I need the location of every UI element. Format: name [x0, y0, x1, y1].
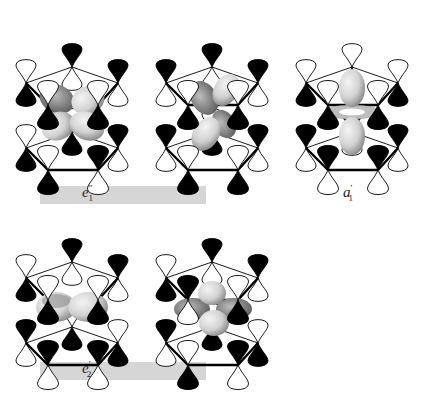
- panel-e2p-b: [156, 239, 268, 390]
- p-orbital-lobe-filled: [388, 125, 408, 148]
- p-orbital-lobe-open: [108, 278, 128, 301]
- p-orbital-lobe-open: [248, 278, 268, 301]
- p-orbital-lobe-filled: [178, 105, 199, 130]
- p-orbital-lobe-open: [248, 320, 268, 343]
- p-orbital-lobe-filled: [108, 255, 128, 278]
- p-orbital-lobe-open: [108, 148, 128, 171]
- p-orbital-lobe-open: [16, 343, 36, 366]
- p-orbital-lobe-open: [62, 262, 82, 285]
- p-orbital-lobe-open: [296, 60, 316, 83]
- symmetry-label: a′1: [343, 183, 353, 203]
- p-orbital-lobe-filled: [178, 170, 199, 195]
- p-orbital-lobe-filled: [248, 343, 268, 366]
- p-orbital-lobe-filled: [248, 125, 268, 148]
- p-orbital-lobe-filled: [202, 239, 222, 262]
- p-orbital-lobe-filled: [38, 340, 59, 365]
- p-orbital-lobe-filled: [108, 343, 128, 366]
- p-orbital-lobe-open: [156, 343, 176, 366]
- p-orbital-lobe-open: [62, 67, 82, 90]
- p-orbital-lobe-open: [38, 365, 59, 390]
- p-orbital-lobe-filled: [228, 340, 249, 365]
- p-orbital-lobe-filled: [228, 105, 249, 130]
- p-orbital-lobe-filled: [248, 255, 268, 278]
- p-orbital-lobe-filled: [156, 278, 176, 301]
- panel-a1p: [296, 44, 408, 195]
- p-orbital-lobe-open: [318, 170, 339, 195]
- p-orbital-lobe-open: [156, 148, 176, 171]
- p-orbital-lobe-open: [16, 60, 36, 83]
- p-orbital-lobe-open: [178, 145, 199, 170]
- p-orbital-lobe-open: [156, 83, 176, 106]
- p-orbital-lobe-open: [342, 44, 362, 67]
- p-orbital-lobe-filled: [108, 125, 128, 148]
- panel-e2p-a: [16, 239, 128, 390]
- p-orbital-lobe-filled: [296, 125, 316, 148]
- p-orbital-lobe-open: [228, 275, 249, 300]
- p-orbital-lobe-open: [38, 145, 59, 170]
- p-orbital-lobe-filled: [156, 60, 176, 83]
- symmetry-label: e″1: [82, 183, 93, 203]
- p-orbital-lobe-filled: [38, 170, 59, 195]
- p-orbital-lobe-open: [318, 80, 339, 105]
- symmetry-label: e′2: [82, 359, 91, 379]
- p-orbital-lobe-filled: [156, 125, 176, 148]
- p-orbital-lobe-filled: [296, 83, 316, 106]
- p-orbital-lobe-open: [388, 148, 408, 171]
- p-orbital-lobe-filled: [16, 148, 36, 171]
- p-orbital-lobe-open: [16, 255, 36, 278]
- p-orbital-lobe-filled: [62, 44, 82, 67]
- p-orbital-lobe-open: [248, 83, 268, 106]
- p-orbital-lobe-filled: [178, 275, 199, 300]
- p-orbital-lobe-filled: [156, 320, 176, 343]
- p-orbital-lobe-filled: [62, 327, 82, 350]
- panel-e1pp-b: [156, 44, 268, 195]
- p-orbital-lobe-open: [248, 148, 268, 171]
- p-orbital-lobe-filled: [88, 145, 109, 170]
- panel-e1pp-a: [16, 44, 128, 195]
- p-orbital-lobe-open: [228, 365, 249, 390]
- p-orbital-lobe-open: [108, 83, 128, 106]
- p-orbital-lobe-open: [228, 145, 249, 170]
- p-orbital-lobe-open: [388, 60, 408, 83]
- p-orbital-lobe-filled: [248, 60, 268, 83]
- p-orbital-lobe-open: [108, 320, 128, 343]
- p-orbital-lobe-open: [368, 170, 389, 195]
- orbital-diagram-canvas: [0, 0, 435, 398]
- p-orbital-lobe-filled: [228, 170, 249, 195]
- orbital-diagram-figure: e″1a′1e′2: [0, 0, 435, 398]
- p-orbital-lobe-filled: [202, 44, 222, 67]
- p-orbital-lobe-filled: [16, 320, 36, 343]
- p-orbital-lobe-filled: [62, 239, 82, 262]
- p-orbital-lobe-filled: [108, 60, 128, 83]
- p-orbital-lobe-open: [16, 125, 36, 148]
- p-orbital-lobe-open: [178, 340, 199, 365]
- p-orbital-lobe-open: [368, 80, 389, 105]
- p-orbital-lobe-open: [296, 148, 316, 171]
- p-orbital-lobe-filled: [16, 83, 36, 106]
- p-orbital-lobe-filled: [178, 365, 199, 390]
- p-orbital-lobe-filled: [318, 145, 339, 170]
- p-orbital-lobe-open: [156, 255, 176, 278]
- p-orbital-lobe-filled: [368, 145, 389, 170]
- p-orbital-lobe-filled: [388, 83, 408, 106]
- p-orbital-lobe-filled: [16, 278, 36, 301]
